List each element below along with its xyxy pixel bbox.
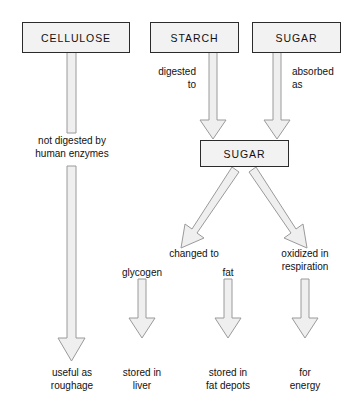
- arrow-sugar-to-oxidized: [249, 167, 307, 248]
- outcome-for-energy: for energy: [290, 367, 321, 392]
- label-changed-to: changed to: [169, 248, 219, 261]
- outcome-useful-as-roughage: useful as roughage: [51, 367, 93, 392]
- label-not-digested-by-human-enzymes: not digested by human enzymes: [35, 135, 108, 160]
- arrow-sugar-absorbed-to-sugar: [264, 52, 290, 139]
- label-oxidized-in-respiration: oxidized in respiration: [281, 248, 328, 273]
- node-starch[interactable]: STARCH: [150, 22, 239, 53]
- arrow-oxidized-to-energy: [292, 279, 318, 338]
- arrow-glycogen-to-liver: [129, 279, 155, 338]
- arrow-cellulose-upper-shaft: [67, 52, 76, 133]
- node-sugar-top[interactable]: SUGAR: [252, 22, 341, 53]
- arrow-cellulose-to-roughage: [58, 166, 85, 361]
- outcome-stored-in-fat-depots: stored in fat depots: [206, 367, 250, 392]
- arrow-starch-to-sugar: [200, 52, 226, 139]
- label-fat: fat: [222, 267, 233, 280]
- node-cellulose[interactable]: CELLULOSE: [22, 22, 130, 53]
- label-digested-to: digested to: [158, 66, 196, 91]
- arrow-fat-to-fat-depots: [215, 279, 241, 338]
- flow-diagram-canvas: CELLULOSE STARCH SUGAR SUGAR digested to…: [0, 0, 353, 405]
- label-glycogen: glycogen: [122, 267, 162, 280]
- node-sugar-middle[interactable]: SUGAR: [200, 140, 289, 167]
- label-absorbed-as: absorbed as: [292, 66, 334, 91]
- arrow-layer: [0, 0, 353, 405]
- outcome-stored-in-liver: stored in liver: [123, 367, 161, 392]
- arrow-sugar-to-changed-to: [181, 167, 239, 248]
